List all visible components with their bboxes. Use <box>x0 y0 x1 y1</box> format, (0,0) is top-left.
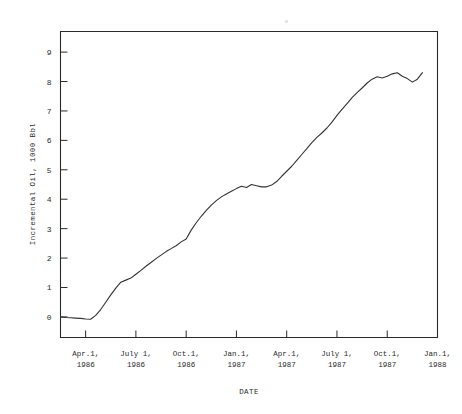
y-tick-label: 2 <box>47 254 52 263</box>
y-tick-label: 0 <box>47 313 52 322</box>
y-axis: 0123456789 <box>47 48 68 322</box>
y-tick-label: 8 <box>47 78 52 87</box>
data-series-line <box>61 73 423 320</box>
x-tick-label-year: 1988 <box>428 361 446 369</box>
x-tick-label-date: Oct.1, <box>374 350 401 358</box>
x-axis-title: DATE <box>239 388 259 396</box>
page-artifact <box>285 20 288 23</box>
x-tick-label-year: 1987 <box>378 361 396 369</box>
y-tick-label: 6 <box>47 136 52 145</box>
x-tick-label-date: Apr.1, <box>72 350 99 358</box>
chart-container: 0123456789 Apr.1,1986July 1,1986Oct.1,19… <box>0 0 462 414</box>
x-tick-label-year: 1987 <box>227 361 245 369</box>
y-tick-label: 3 <box>47 225 52 234</box>
x-tick-label-year: 1986 <box>77 361 96 369</box>
x-tick-label-year: 1986 <box>127 361 146 369</box>
x-tick-label-date: July 1, <box>120 350 152 358</box>
x-tick-label-date: Jan.1, <box>223 350 250 358</box>
y-tick-label: 4 <box>47 195 52 204</box>
x-tick-label-date: July 1, <box>321 350 353 358</box>
y-tick-label: 7 <box>47 107 52 116</box>
x-tick-label-date: Apr.1, <box>273 350 300 358</box>
x-tick-label-date: Jan.1, <box>424 350 451 358</box>
x-axis: Apr.1,1986July 1,1986Oct.1,1986Jan.1,198… <box>72 331 451 369</box>
x-tick-label-year: 1987 <box>328 361 346 369</box>
x-tick-label-year: 1987 <box>278 361 296 369</box>
line-chart: 0123456789 Apr.1,1986July 1,1986Oct.1,19… <box>0 0 462 414</box>
y-tick-label: 5 <box>47 166 52 175</box>
x-tick-label-date: Oct.1, <box>173 350 200 358</box>
y-tick-label: 9 <box>47 48 52 57</box>
y-tick-label: 1 <box>47 283 52 292</box>
x-tick-label-year: 1986 <box>177 361 196 369</box>
y-axis-title: Incremental Oil, 1000 Bbl <box>29 123 37 246</box>
